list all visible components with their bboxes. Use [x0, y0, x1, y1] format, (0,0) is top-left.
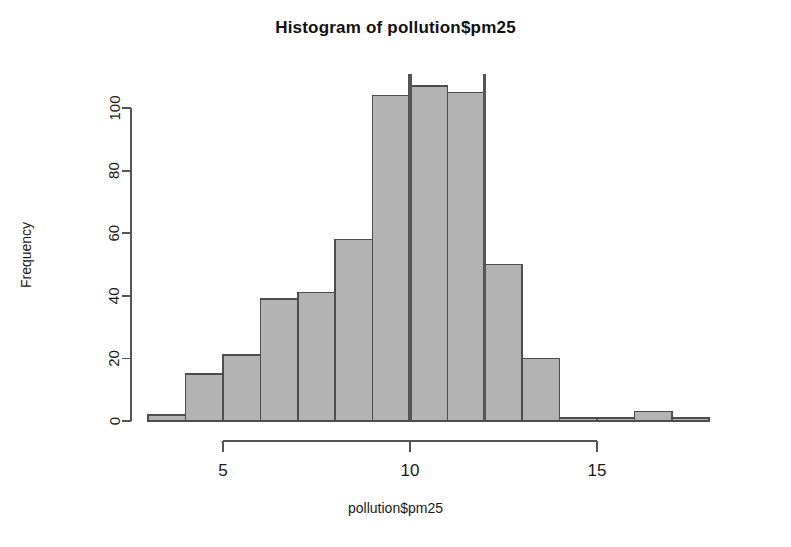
histogram-bar — [373, 95, 410, 421]
histogram-bar — [186, 374, 223, 421]
histogram-bars — [148, 86, 709, 421]
x-tick-label: 5 — [218, 461, 227, 480]
plot-canvas: 02040608010051015 — [0, 0, 791, 547]
histogram-bar — [672, 418, 709, 421]
x-axis-label: pollution$pm25 — [0, 500, 791, 516]
histogram-bar — [634, 412, 671, 421]
histogram-bar — [447, 92, 484, 421]
histogram-plot: Histogram of pollution$pm25 020406080100… — [0, 0, 791, 547]
y-tick-label: 80 — [106, 162, 123, 179]
y-tick-label: 40 — [106, 287, 123, 304]
histogram-bar — [410, 86, 447, 421]
y-tick-label: 100 — [106, 95, 123, 120]
y-tick-label: 20 — [106, 350, 123, 367]
histogram-bar — [260, 299, 297, 421]
y-tick-label: 0 — [106, 417, 123, 425]
histogram-bar — [335, 239, 372, 421]
x-tick-label: 15 — [588, 461, 607, 480]
histogram-bar — [560, 418, 597, 421]
x-tick-label: 10 — [401, 461, 420, 480]
y-tick-label: 60 — [106, 225, 123, 242]
histogram-bar — [298, 293, 335, 421]
histogram-bar — [148, 415, 185, 421]
y-axis-label: Frequency — [18, 190, 34, 320]
histogram-bar — [522, 358, 559, 421]
histogram-bar — [223, 355, 260, 421]
histogram-bar — [485, 265, 522, 422]
histogram-bar — [597, 418, 634, 421]
